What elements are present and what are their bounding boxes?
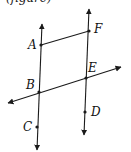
point-f bbox=[87, 29, 90, 32]
point-d bbox=[83, 110, 86, 113]
point-e bbox=[84, 76, 87, 79]
line-AC bbox=[37, 24, 42, 150]
point-label-c: C bbox=[23, 120, 32, 134]
point-label-e: E bbox=[87, 61, 97, 75]
point-label-b: B bbox=[25, 78, 35, 92]
transversal-BE bbox=[8, 67, 121, 103]
point-b bbox=[37, 90, 40, 93]
segment-AF bbox=[41, 31, 89, 45]
geometry-diagram: AFEBDC bbox=[0, 0, 131, 152]
point-label-f: F bbox=[93, 22, 103, 36]
point-label-a: A bbox=[27, 38, 37, 52]
point-c bbox=[35, 125, 38, 128]
point-a bbox=[39, 43, 42, 46]
point-label-d: D bbox=[90, 105, 101, 119]
